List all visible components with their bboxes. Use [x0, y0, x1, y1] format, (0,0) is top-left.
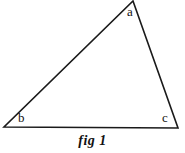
vertex-label-c: c	[162, 111, 168, 124]
vertex-label-a: a	[127, 5, 133, 18]
figure-container: a b c fig 1	[0, 0, 185, 153]
vertex-label-b: b	[18, 111, 25, 124]
figure-caption: fig 1	[0, 133, 185, 149]
triangle-diagram	[0, 0, 185, 153]
triangle-outline	[4, 1, 178, 128]
